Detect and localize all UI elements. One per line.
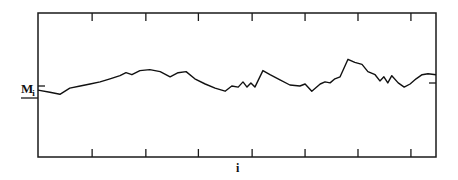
line-chart: Mi i [0,0,458,180]
series-line-M-i [38,59,436,94]
x-axis-label: i [236,161,240,175]
top-ticks [92,13,411,21]
plot-frame [38,13,436,157]
bottom-ticks [92,149,411,157]
y-axis-label: Mi [21,81,35,98]
